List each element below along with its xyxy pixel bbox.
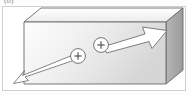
slab-top-face [24,8,183,22]
charge-1 [71,49,86,64]
slab-diagram [0,0,189,95]
slab-side-face [166,8,183,84]
charge-2 [94,38,109,53]
figure-container: (b) [0,0,189,95]
